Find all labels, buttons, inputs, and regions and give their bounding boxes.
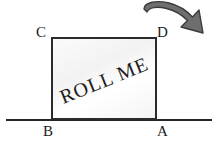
block-shape — [51, 37, 157, 120]
corner-label-a: A — [157, 124, 168, 139]
diagram-canvas: ROLL ME C D B A — [0, 0, 217, 148]
curved-clockwise-arrow-icon — [141, 0, 213, 36]
rotation-arrow — [141, 0, 213, 36]
corner-label-c: C — [36, 25, 46, 40]
corner-label-b: B — [43, 124, 53, 139]
